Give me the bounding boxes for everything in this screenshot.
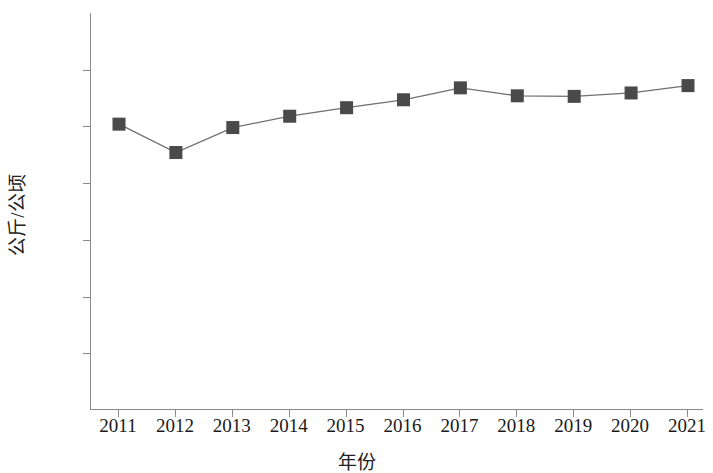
plot-area <box>90 13 703 410</box>
data-point-marker <box>283 110 296 123</box>
x-tick-label: 2021 <box>652 416 713 435</box>
y-tick-mark <box>83 297 90 298</box>
y-tick-mark <box>83 240 90 241</box>
y-tick-mark <box>83 126 90 127</box>
x-tick-mark <box>118 410 119 417</box>
x-tick-mark <box>175 410 176 417</box>
x-tick-mark <box>687 410 688 417</box>
data-point-marker <box>625 86 638 99</box>
data-point-marker <box>340 101 353 114</box>
chart-container: 公斤/公顷 05001 0001 5002 0002 5003 0003 500… <box>0 0 713 473</box>
x-tick-mark <box>573 410 574 417</box>
data-point-marker <box>511 89 524 102</box>
x-tick-mark <box>516 410 517 417</box>
y-tick-mark <box>83 70 90 71</box>
data-point-marker <box>682 79 695 92</box>
y-tick-mark <box>83 353 90 354</box>
data-point-marker <box>397 93 410 106</box>
data-point-marker <box>454 81 467 94</box>
series-marker-group <box>113 79 695 159</box>
series-line-and-markers <box>91 13 704 410</box>
x-tick-mark <box>630 410 631 417</box>
y-tick-mark <box>83 183 90 184</box>
data-point-marker <box>568 90 581 103</box>
x-axis-title: 年份 <box>0 447 713 473</box>
x-tick-mark <box>403 410 404 417</box>
data-point-marker <box>169 146 182 159</box>
x-tick-mark <box>346 410 347 417</box>
x-tick-mark <box>289 410 290 417</box>
data-point-marker <box>226 121 239 134</box>
x-tick-mark <box>459 410 460 417</box>
y-axis-title: 公斤/公顷 <box>2 155 29 275</box>
data-point-marker <box>113 118 126 131</box>
x-tick-mark <box>232 410 233 417</box>
